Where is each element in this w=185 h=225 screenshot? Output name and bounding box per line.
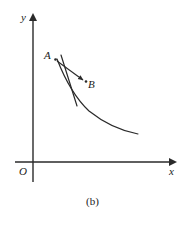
figure-graph [0, 0, 185, 225]
point-label-b: B [88, 79, 95, 90]
arrow-A-to-B [57, 61, 83, 80]
tangent-line-at-A [61, 55, 77, 106]
point-dot-B [85, 80, 88, 83]
x-axis-label: x [169, 166, 174, 177]
point-label-a: A [44, 50, 51, 61]
point-dot-A [54, 58, 57, 61]
figure-caption: (b) [0, 196, 185, 207]
origin-label: O [19, 166, 27, 177]
y-axis-label: y [21, 12, 26, 23]
